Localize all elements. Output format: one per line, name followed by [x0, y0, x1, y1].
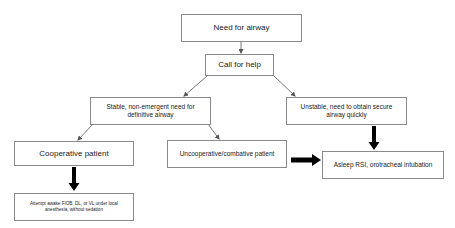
node-label: Unstable, need to obtain secure airway q… [291, 103, 402, 119]
node-label: Asleep RSI, orotracheal intubation [334, 161, 433, 169]
thick-arrow-cooperative-to-attempt [69, 167, 80, 191]
node-unstable: Unstable, need to obtain secure airway q… [286, 97, 407, 125]
node-label: Call for help [218, 60, 261, 70]
node-uncooperative: Uncooperative/combative patient [167, 140, 287, 168]
node-attempt-awake: Attempt awake FIOB, DL, or VL under loca… [14, 193, 134, 221]
arrow-stable-to-uncooperative [208, 124, 219, 139]
airway-flowchart: Need for airway Call for help Stable, no… [0, 0, 455, 228]
node-asleep-rsi: Asleep RSI, orotracheal intubation [322, 151, 444, 179]
node-need-for-airway: Need for airway [181, 14, 302, 42]
node-call-for-help: Call for help [205, 54, 274, 76]
thick-arrow-unstable-to-asleep [369, 126, 380, 150]
node-label: Stable, non-emergent need for definitive… [95, 103, 206, 119]
arrow-call-to-stable [184, 76, 207, 96]
arrow-stable-to-cooperative [78, 124, 93, 140]
arrow-call-to-unstable [273, 75, 295, 96]
node-label: Attempt awake FIOB, DL, or VL under loca… [19, 201, 129, 212]
node-label: Uncooperative/combative patient [180, 150, 275, 158]
node-label: Need for airway [213, 23, 269, 33]
node-stable: Stable, non-emergent need for definitive… [90, 97, 211, 125]
node-cooperative: Cooperative patient [14, 141, 134, 166]
node-label: Cooperative patient [39, 149, 108, 159]
thick-arrow-uncooperative-to-asleep [291, 154, 321, 166]
